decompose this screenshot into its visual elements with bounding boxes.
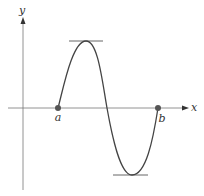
x-axis-arrow-icon <box>182 106 189 111</box>
point-a-label: a <box>55 111 62 124</box>
point-a: a <box>55 105 62 124</box>
y-axis: y <box>18 4 26 190</box>
y-axis-arrow-icon <box>21 17 26 24</box>
diagram-canvas: y x a b <box>0 0 204 196</box>
y-axis-label: y <box>18 4 26 17</box>
x-axis: x <box>8 101 198 114</box>
point-b-label: b <box>158 112 165 125</box>
x-axis-label: x <box>191 101 198 114</box>
